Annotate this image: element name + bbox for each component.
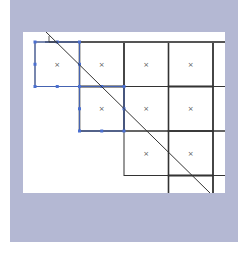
selection-handle[interactable] — [78, 41, 81, 44]
selection-handle[interactable] — [123, 85, 126, 88]
cell-center-marker: × — [99, 105, 105, 113]
grid-cell — [213, 131, 225, 176]
figure-panel: ××××××××× — [10, 0, 238, 242]
selection-handle[interactable] — [78, 130, 81, 133]
cell-center-marker: × — [54, 61, 60, 69]
selection-handle[interactable] — [34, 63, 37, 66]
grid-cell — [213, 42, 225, 87]
cell-center-marker: × — [143, 105, 149, 113]
selection-handle[interactable] — [123, 130, 126, 133]
cell-center-marker: × — [188, 150, 194, 158]
cell-center-marker: × — [188, 61, 194, 69]
diagonal-line — [46, 32, 210, 193]
grid-cell — [213, 176, 225, 194]
selection-handle[interactable] — [34, 85, 37, 88]
grid-cell — [169, 176, 214, 194]
cell-center-marker: × — [188, 105, 194, 113]
selection-handle[interactable] — [78, 107, 81, 110]
selection-handle[interactable] — [56, 85, 59, 88]
grid-cell — [213, 87, 225, 132]
selection-handle[interactable] — [100, 130, 103, 133]
diagram-canvas: ××××××××× — [23, 32, 225, 193]
cell-center-marker: × — [99, 61, 105, 69]
cell-center-marker: × — [143, 61, 149, 69]
selection-handle[interactable] — [78, 85, 81, 88]
staircase-grid-diagram: ××××××××× — [23, 32, 225, 193]
selection-handle[interactable] — [34, 41, 37, 44]
cell-center-marker: × — [143, 150, 149, 158]
